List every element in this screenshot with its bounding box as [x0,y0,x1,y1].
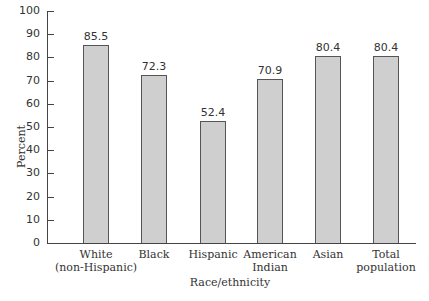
y-tick-mark [47,150,54,151]
y-tick-label: 10 [10,213,40,226]
y-tick-mark [47,173,54,174]
bar [200,121,226,243]
y-tick-mark [47,243,54,244]
category-label-line: population [341,261,429,274]
x-axis [47,243,416,244]
bar [83,45,109,243]
y-tick-mark [47,57,54,58]
bar-value-label: 80.4 [303,41,353,54]
category-label-line: (non-Hispanic) [51,261,141,274]
bar-value-label: 80.4 [361,41,411,54]
bar-value-label: 52.4 [188,106,238,119]
bar [373,56,399,243]
y-tick-label: 70 [10,74,40,87]
y-tick-mark [47,81,54,82]
bar [315,56,341,243]
y-tick-label: 100 [10,4,40,17]
y-tick-mark [47,220,54,221]
bar-chart: 0102030405060708090100 85.5White(non-His… [0,0,429,301]
y-tick-label: 20 [10,190,40,203]
y-tick-mark [47,127,54,128]
y-tick-label: 90 [10,27,40,40]
y-axis-label: Percent [15,122,28,172]
y-tick-mark [47,104,54,105]
category-label-line: Total [341,248,429,261]
bar-value-label: 70.9 [245,64,295,77]
bar [257,79,283,243]
y-tick-label: 80 [10,50,40,63]
y-tick-label: 60 [10,97,40,110]
x-category-label: Totalpopulation [341,248,429,274]
bar [141,75,167,243]
y-tick-mark [47,197,54,198]
x-axis-label: Race/ethnicity [180,276,280,289]
category-label-line: Indian [225,261,315,274]
bar-value-label: 85.5 [71,30,121,43]
bar-value-label: 72.3 [129,60,179,73]
y-tick-mark [47,34,54,35]
y-tick-label: 0 [10,236,40,249]
y-tick-mark [47,11,54,12]
